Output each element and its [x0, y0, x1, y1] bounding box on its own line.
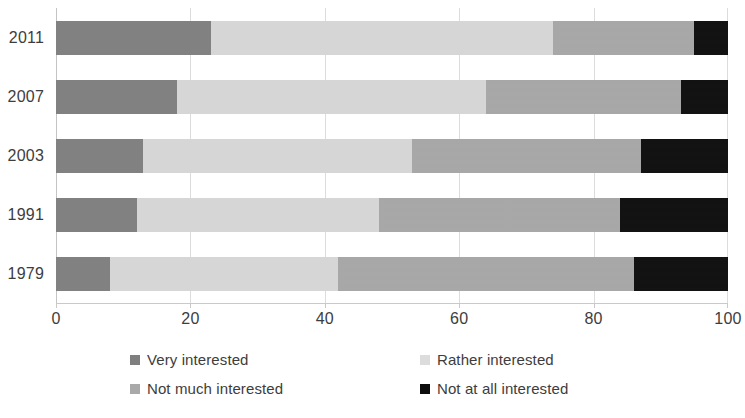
y-axis-label-1979: 1979 — [8, 257, 44, 291]
bar-series-group — [56, 8, 728, 303]
bar-row — [56, 139, 728, 173]
tick-mark-20 — [190, 303, 191, 308]
plot-area — [56, 8, 728, 303]
y-axis-label-2007: 2007 — [8, 80, 44, 114]
stacked-bar-chart: 20112007200319911979 020406080100 Very i… — [0, 0, 745, 418]
y-axis-category-labels: 20112007200319911979 — [0, 8, 52, 303]
bar-segment — [681, 80, 728, 114]
chart-legend: Very interestedRather interestedNot much… — [130, 352, 690, 396]
tick-mark-100 — [727, 303, 728, 308]
bar-row — [56, 21, 728, 55]
legend-swatch-icon — [420, 355, 430, 365]
bar-segment — [110, 257, 338, 291]
bar-row — [56, 198, 728, 232]
legend-item-1[interactable]: Rather interested — [420, 352, 690, 367]
x-axis-tick-labels: 020406080100 — [56, 310, 728, 336]
x-axis-tick-marks — [56, 303, 728, 308]
bar-segment — [641, 139, 728, 173]
x-axis-label-20: 20 — [181, 310, 199, 328]
bar-segment — [56, 139, 143, 173]
legend-label: Rather interested — [437, 352, 554, 367]
bar-track-2003 — [56, 139, 728, 173]
bar-segment — [694, 21, 728, 55]
bar-segment — [56, 21, 211, 55]
bar-segment — [143, 139, 412, 173]
y-axis-label-2003: 2003 — [8, 139, 44, 173]
bar-segment — [553, 21, 694, 55]
bar-track-1979 — [56, 257, 728, 291]
bar-segment — [634, 257, 728, 291]
bar-segment — [56, 198, 137, 232]
y-axis-label-1991: 1991 — [8, 198, 44, 232]
legend-item-3[interactable]: Not at all interested — [420, 381, 690, 396]
legend-item-0[interactable]: Very interested — [130, 352, 420, 367]
bar-segment — [379, 198, 621, 232]
legend-swatch-icon — [130, 355, 140, 365]
y-axis-label-2011: 2011 — [9, 21, 44, 55]
bar-segment — [620, 198, 728, 232]
bar-segment — [338, 257, 634, 291]
legend-swatch-icon — [130, 384, 140, 394]
x-axis-label-0: 0 — [51, 310, 60, 328]
tick-mark-0 — [56, 303, 57, 308]
x-axis-label-100: 100 — [714, 310, 741, 328]
bar-segment — [211, 21, 554, 55]
tick-mark-40 — [325, 303, 326, 308]
bar-row — [56, 257, 728, 291]
x-axis-label-60: 60 — [450, 310, 468, 328]
bar-segment — [412, 139, 640, 173]
bar-segment — [56, 257, 110, 291]
bar-segment — [486, 80, 681, 114]
x-axis-label-80: 80 — [584, 310, 602, 328]
legend-item-2[interactable]: Not much interested — [130, 381, 420, 396]
bar-track-2011 — [56, 21, 728, 55]
legend-label: Not much interested — [147, 381, 283, 396]
bar-segment — [177, 80, 486, 114]
legend-label: Not at all interested — [437, 381, 568, 396]
legend-swatch-icon — [420, 384, 430, 394]
bar-segment — [56, 80, 177, 114]
bar-track-1991 — [56, 198, 728, 232]
legend-label: Very interested — [147, 352, 249, 367]
bar-track-2007 — [56, 80, 728, 114]
tick-mark-60 — [459, 303, 460, 308]
x-axis-label-40: 40 — [316, 310, 334, 328]
bar-segment — [137, 198, 379, 232]
bar-row — [56, 80, 728, 114]
tick-mark-80 — [594, 303, 595, 308]
